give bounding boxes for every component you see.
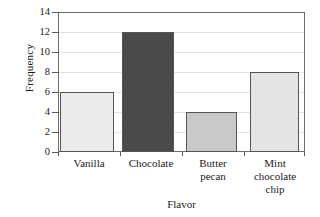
y-tick <box>52 92 59 93</box>
y-tick <box>52 12 59 13</box>
y-tick <box>52 52 59 53</box>
x-axis-title: Flavor <box>58 198 305 210</box>
y-tick-label: 0 <box>26 147 50 157</box>
y-tick <box>52 72 59 73</box>
x-tick-label-mint-chocolate-chip: Mint chocolate chip <box>244 157 306 196</box>
bar-mint-chocolate-chip <box>250 72 299 152</box>
x-tick <box>120 152 121 156</box>
y-tick-label: 4 <box>26 107 50 117</box>
y-tick-label: 8 <box>26 67 50 77</box>
x-tick <box>58 152 59 156</box>
y-tick-label: 2 <box>26 127 50 137</box>
bar-chocolate <box>122 32 174 152</box>
x-tick-label-vanilla: Vanilla <box>58 157 120 170</box>
y-tick <box>52 132 59 133</box>
x-tick-label-chocolate: Chocolate <box>120 157 182 170</box>
x-tick <box>304 152 305 156</box>
y-tick <box>52 32 59 33</box>
y-tick <box>52 112 59 113</box>
bar-series <box>58 12 305 152</box>
bar-vanilla <box>60 92 114 152</box>
x-tick <box>182 152 183 156</box>
y-tick-label: 6 <box>26 87 50 97</box>
x-tick-label-butter-pecan: Butter pecan <box>182 157 244 183</box>
bar-chart: Frequency 14 12 10 8 6 4 2 0 Vanilla Cho… <box>0 0 320 217</box>
y-tick-label: 10 <box>26 47 50 57</box>
x-tick <box>244 152 245 156</box>
y-tick-label: 14 <box>26 7 50 17</box>
bar-butter-pecan <box>186 112 237 152</box>
y-tick-label: 12 <box>26 27 50 37</box>
